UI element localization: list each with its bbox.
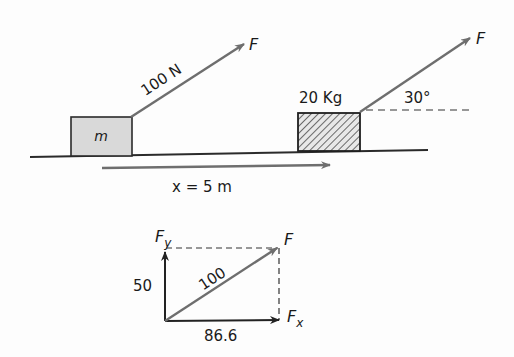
vector-decomposition: Fy F Fx 50 100 86.6 [133, 227, 304, 345]
displacement-arrow [102, 165, 330, 168]
fx-arrow [165, 320, 279, 321]
angle-label: 30° [404, 89, 431, 107]
f-resultant-arrow [165, 248, 277, 321]
block-m-label: m [94, 128, 108, 144]
diagram-canvas: m 100 N F 20 Kg F 30° x = 5 m Fy [0, 0, 514, 357]
displacement-label: x = 5 m [172, 178, 232, 196]
block-mass-label: 20 Kg [299, 89, 342, 107]
block-20kg [298, 113, 360, 151]
force-right-name-label: F [476, 29, 486, 48]
fx-value-label: 86.6 [204, 327, 237, 345]
force-magnitude-label: 100 N [138, 60, 185, 99]
fx-label: Fx [287, 307, 304, 330]
fy-label: Fy [155, 227, 172, 250]
f-label: F [284, 230, 294, 249]
fy-value-label: 50 [133, 277, 152, 295]
physics-work-diagram: m 100 N F 20 Kg F 30° x = 5 m Fy [0, 0, 514, 357]
force-left-name-label: F [249, 35, 259, 54]
